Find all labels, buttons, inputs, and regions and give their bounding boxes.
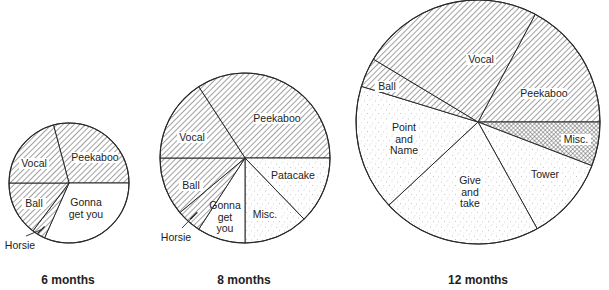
slice-label-gonna-get-you: get [218, 211, 233, 223]
slice-label-gonna-get-you: Gonna [209, 199, 241, 211]
slice-label-ball: Ball [378, 80, 396, 92]
slice-label-gonna-get-you: you [217, 222, 234, 234]
slice-label-misc: Misc. [564, 133, 589, 145]
slice-label-vocal: Vocal [179, 131, 205, 143]
slice-label-vocal: Vocal [468, 53, 494, 65]
slice-label-tower: Tower [531, 168, 560, 180]
slice-label-ball: Ball [182, 179, 200, 191]
pie-6-months: PeekabooGonnaget youHorsieBallVocal [5, 123, 129, 251]
slice-label-point-and-name: Point [392, 121, 416, 133]
slice-label-peekaboo: Peekaboo [253, 112, 300, 124]
pie-8-months: PeekabooPatacakeMisc.GonnagetyouHorsieBa… [160, 73, 330, 243]
pie-12-months: PeekabooMisc.TowerGiveandtakePointandNam… [356, 0, 600, 244]
slice-label-vocal: Vocal [21, 157, 47, 169]
slice-label-horsie: Horsie [161, 231, 192, 243]
slice-label-give-and-take: and [461, 186, 479, 198]
slice-label-patacake: Patacake [271, 169, 315, 181]
caption-6-months: 6 months [41, 273, 95, 287]
slice-label-ball: Ball [25, 197, 43, 209]
slice-label-peekaboo: Peekaboo [71, 151, 118, 163]
slice-label-give-and-take: Give [459, 174, 481, 186]
slice-label-point-and-name: Name [390, 144, 418, 156]
slice-label-peekaboo: Peekaboo [520, 87, 567, 99]
slice-label-point-and-name: and [395, 133, 413, 145]
caption-12-months: 12 months [448, 273, 508, 287]
slice-label-gonna-get-you: get you [69, 208, 104, 220]
slice-label-give-and-take: take [460, 197, 480, 209]
pie-charts: PeekabooGonnaget youHorsieBallVocal Peek… [0, 0, 609, 290]
slice-label-horsie: Horsie [5, 239, 36, 251]
caption-8-months: 8 months [217, 273, 271, 287]
slice-label-misc: Misc. [253, 208, 278, 220]
slice-label-gonna-get-you: Gonna [70, 196, 102, 208]
